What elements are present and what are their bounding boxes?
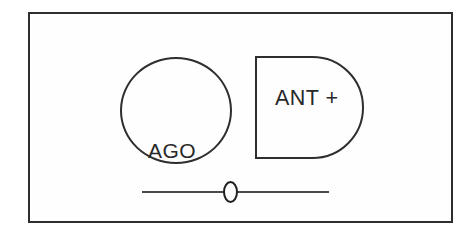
circle-node-label-line2: > [148, 223, 196, 233]
diagram-frame: AGO > ANT + [28, 12, 453, 223]
circle-node-label: AGO > [148, 78, 196, 233]
circle-node[interactable]: AGO > [120, 57, 232, 164]
dshape-node-label: ANT + [275, 86, 339, 111]
circle-node-label-line1: AGO [148, 136, 196, 165]
dshape-node[interactable]: ANT + [255, 56, 364, 159]
slider-thumb[interactable] [223, 181, 238, 203]
